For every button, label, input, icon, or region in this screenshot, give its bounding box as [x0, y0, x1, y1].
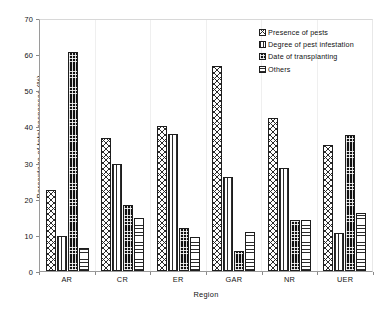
legend-label: Others [268, 65, 290, 74]
legend-item: Presence of pests [259, 28, 354, 37]
y-tick-label: 0 [29, 268, 33, 277]
bar [46, 190, 56, 271]
legend-item: Others [259, 65, 354, 74]
y-axis-ticks: 010203040506070 [0, 0, 40, 319]
bar-group [96, 20, 152, 271]
bar [123, 205, 133, 271]
bar-chart: Percentage of total responses (%) 010203… [0, 0, 383, 319]
y-tick-label: 50 [24, 87, 33, 96]
x-tick-label: ER [150, 275, 206, 284]
bar [356, 213, 366, 271]
legend-label: Presence of pests [268, 28, 328, 37]
bar [290, 220, 300, 271]
bar [57, 236, 67, 271]
y-tick-label: 40 [24, 123, 33, 132]
bar [112, 164, 122, 271]
legend-label: Degree of pest infestation [268, 40, 354, 49]
bar [334, 233, 344, 271]
bar [212, 66, 222, 271]
bar [234, 251, 244, 271]
bar [345, 135, 355, 271]
bar [190, 237, 200, 271]
y-tick-label: 10 [24, 231, 33, 240]
x-tick-label: NR [262, 275, 318, 284]
legend-swatch-icon [259, 66, 266, 73]
bar [279, 168, 289, 271]
y-tick-label: 20 [24, 195, 33, 204]
y-tick-label: 60 [24, 51, 33, 60]
x-tick-mark [373, 272, 374, 275]
bar [179, 228, 189, 271]
x-tick-label: CR [95, 275, 151, 284]
bar [157, 126, 167, 271]
x-tick-label: UER [317, 275, 373, 284]
x-tick-label: AR [39, 275, 95, 284]
bar [134, 218, 144, 271]
x-axis-labels: ARCRERGARNRUER [39, 275, 373, 284]
y-tick-label: 70 [24, 15, 33, 24]
legend-item: Date of transplanting [259, 52, 354, 61]
y-tick-label: 30 [24, 159, 33, 168]
bar [323, 145, 333, 271]
bar [68, 52, 78, 271]
legend-swatch-icon [259, 29, 266, 36]
x-tick-label: GAR [206, 275, 262, 284]
legend-swatch-icon [259, 41, 266, 48]
legend-swatch-icon [259, 53, 266, 60]
bar [79, 248, 89, 271]
bar-group [40, 20, 96, 271]
bar [223, 177, 233, 271]
bar [245, 232, 255, 271]
chart-legend: Presence of pestsDegree of pest infestat… [259, 28, 354, 74]
legend-label: Date of transplanting [268, 52, 337, 61]
bar [268, 118, 278, 271]
bar [168, 134, 178, 271]
x-axis-title: Region [39, 290, 373, 299]
bar-group [151, 20, 207, 271]
bar [101, 138, 111, 271]
bar [301, 220, 311, 271]
legend-item: Degree of pest infestation [259, 40, 354, 49]
bar-group [207, 20, 263, 271]
